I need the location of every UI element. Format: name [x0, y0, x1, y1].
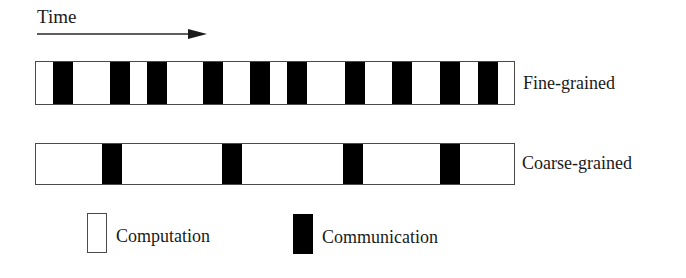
communication-legend-swatch	[293, 214, 313, 254]
time-arrow-icon	[36, 27, 208, 41]
communication-block	[345, 62, 365, 104]
computation-legend-label: Computation	[116, 225, 210, 247]
communication-block	[110, 62, 130, 104]
communication-block	[440, 62, 460, 104]
communication-block	[222, 144, 242, 184]
communication-block	[440, 144, 460, 184]
coarse-grained-label: Coarse-grained	[522, 152, 632, 174]
computation-legend-swatch	[87, 213, 107, 253]
communication-block	[250, 62, 270, 104]
communication-block	[343, 144, 363, 184]
communication-block	[147, 62, 167, 104]
coarse-grained-timeline	[35, 143, 515, 185]
communication-block	[392, 62, 412, 104]
time-label: Time	[37, 6, 76, 28]
communication-block	[53, 62, 73, 104]
fine-grained-label: Fine-grained	[523, 72, 615, 94]
communication-block	[102, 144, 122, 184]
communication-legend-label: Communication	[322, 226, 438, 248]
communication-block	[478, 62, 498, 104]
communication-block	[203, 62, 223, 104]
communication-block	[287, 62, 307, 104]
fine-grained-timeline	[35, 61, 515, 105]
